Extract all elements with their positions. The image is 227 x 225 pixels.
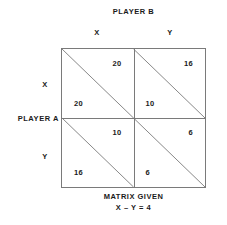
figure-caption: MATRIX GIVEN X – Y = 4 xyxy=(61,191,206,213)
payoff-row-player: 6 xyxy=(146,168,150,177)
column-header-y: Y xyxy=(160,28,180,37)
matrix-grid: 20 20 16 10 10 16 6 6 xyxy=(61,48,206,188)
payoff-column-player: 10 xyxy=(113,128,122,137)
payoff-row-player: 20 xyxy=(74,99,83,108)
row-player-title: PLAYER A xyxy=(2,114,59,123)
payoff-matrix-figure: PLAYER B X Y PLAYER A X Y 20 20 16 10 10… xyxy=(0,0,227,225)
matrix-cell-y-y: 6 6 xyxy=(134,118,206,187)
caption-title: MATRIX GIVEN xyxy=(61,191,206,202)
column-player-title: PLAYER B xyxy=(61,7,206,16)
matrix-cell-x-y: 16 10 xyxy=(134,49,206,118)
row-header-y: Y xyxy=(38,152,52,161)
payoff-column-player: 16 xyxy=(184,59,193,68)
row-header-x: X xyxy=(38,80,52,89)
payoff-row-player: 16 xyxy=(74,168,83,177)
matrix-cell-y-x: 10 16 xyxy=(62,118,134,187)
payoff-column-player: 6 xyxy=(189,128,193,137)
payoff-column-player: 20 xyxy=(113,59,122,68)
column-header-x: X xyxy=(87,28,107,37)
payoff-row-player: 10 xyxy=(146,99,155,108)
matrix-cell-x-x: 20 20 xyxy=(62,49,134,118)
caption-equation: X – Y = 4 xyxy=(61,202,206,213)
